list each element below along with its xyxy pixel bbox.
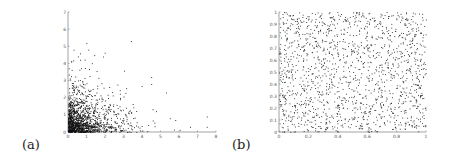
svg-text:0: 0 [274,130,277,135]
svg-text:0: 0 [278,134,281,139]
svg-text:0.9: 0.9 [270,22,277,27]
svg-text:0.8: 0.8 [270,34,277,39]
svg-text:7: 7 [63,10,66,15]
svg-text:0: 0 [67,134,70,139]
svg-text:2: 2 [63,95,66,100]
svg-text:0.2: 0.2 [270,106,277,111]
scatter-plot-b: 00.20.40.60.8100.10.20.30.40.50.60.70.80… [270,10,428,140]
svg-text:4: 4 [63,61,66,66]
svg-text:5: 5 [63,44,66,49]
svg-text:1: 1 [85,134,88,139]
scatter-plot-a: 01234567801234567 [63,10,217,140]
svg-text:2: 2 [104,134,107,139]
svg-text:0.8: 0.8 [393,134,400,139]
svg-text:4: 4 [141,134,144,139]
svg-text:6: 6 [63,27,66,32]
svg-text:0.3: 0.3 [270,94,277,99]
svg-text:0.6: 0.6 [364,134,371,139]
svg-text:1: 1 [63,112,66,117]
svg-text:0: 0 [63,130,66,135]
svg-text:0.4: 0.4 [270,82,277,87]
svg-text:1: 1 [274,10,277,15]
svg-text:3: 3 [63,78,66,83]
svg-text:0.4: 0.4 [334,134,341,139]
scatter-plots: 01234567801234567 00.20.40.60.8100.10.20… [0,0,449,163]
svg-text:0.1: 0.1 [270,118,277,123]
svg-text:0.2: 0.2 [305,134,312,139]
svg-text:3: 3 [122,134,125,139]
svg-text:6: 6 [178,134,181,139]
svg-text:8: 8 [215,134,218,139]
svg-text:0.6: 0.6 [270,58,277,63]
svg-text:0.7: 0.7 [270,46,277,51]
svg-text:0.5: 0.5 [270,70,277,75]
svg-text:7: 7 [196,134,199,139]
svg-text:1: 1 [425,134,428,139]
svg-text:5: 5 [159,134,162,139]
